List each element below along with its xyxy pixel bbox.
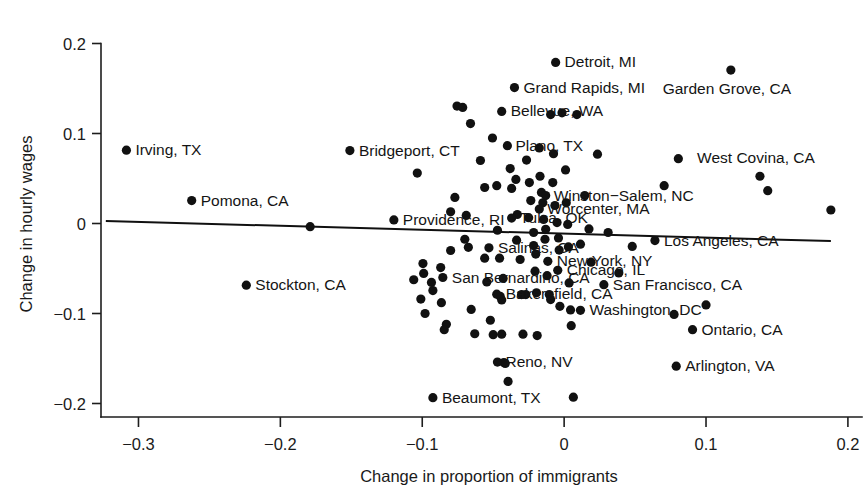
data-point: [306, 222, 315, 231]
data-point: [529, 228, 538, 237]
data-point: [470, 329, 479, 338]
data-point-labeled: [541, 191, 550, 200]
data-point: [489, 330, 498, 339]
axis-titles-group: Change in proportion of immigrantsChange…: [17, 135, 618, 485]
x-tick-label: 0.2: [836, 435, 859, 453]
data-point: [522, 155, 531, 164]
y-tick-label: −0.2: [53, 395, 86, 413]
data-point: [458, 103, 467, 112]
data-point: [525, 178, 534, 187]
data-point-labeled: [576, 306, 585, 315]
data-point: [628, 242, 637, 251]
data-point: [460, 235, 469, 244]
data-point: [428, 286, 437, 295]
data-point: [541, 225, 550, 234]
data-point: [507, 184, 516, 193]
data-point-labeled: [510, 83, 519, 92]
y-tick-label: 0.1: [63, 125, 86, 143]
data-point-labeled: [428, 393, 437, 402]
data-point-labeled: [507, 214, 516, 223]
x-tick-label: −0.1: [406, 435, 439, 453]
data-point: [446, 246, 455, 255]
data-point: [419, 269, 428, 278]
data-point-label: West Covina, CA: [697, 149, 815, 166]
data-point-label: Reno, NV: [505, 353, 573, 370]
data-point-label: Bellevue, WA: [511, 102, 604, 119]
data-point-labeled: [389, 215, 398, 224]
data-point-label: Los Angeles, CA: [664, 232, 779, 249]
scatter-plot-figure: 0.20.10−0.1−0.2−0.3−0.2−0.100.10.2 Irvin…: [0, 0, 867, 503]
data-point-labeled: [650, 236, 659, 245]
data-point: [416, 295, 425, 304]
y-axis-title: Change in hourly wages: [17, 135, 35, 312]
data-point-labeled: [726, 65, 735, 74]
data-point-labeled: [492, 290, 501, 299]
data-point: [466, 119, 475, 128]
data-point-label: Plano, TX: [515, 137, 583, 154]
data-point-label: Garden Grove, CA: [663, 80, 792, 97]
data-point-labeled: [345, 146, 354, 155]
data-point-labeled: [551, 58, 560, 67]
y-tick-label: −0.1: [53, 305, 86, 323]
data-point: [516, 255, 525, 264]
data-point-labeled: [493, 358, 502, 367]
data-point: [497, 330, 506, 339]
data-point: [409, 275, 418, 284]
data-point: [492, 181, 501, 190]
data-point-labeled: [242, 281, 251, 290]
data-point-labeled: [187, 196, 196, 205]
data-point-label: San Francisco, CA: [613, 276, 743, 293]
data-point: [518, 330, 527, 339]
data-point: [436, 263, 445, 272]
data-point-labeled: [672, 362, 681, 371]
data-point: [511, 175, 520, 184]
data-point: [427, 278, 436, 287]
plot-canvas: 0.20.10−0.1−0.2−0.3−0.2−0.100.10.2 Irvin…: [0, 0, 867, 503]
data-point-labeled: [543, 257, 552, 266]
data-point-label: Winston−Salem, NC: [554, 187, 694, 204]
data-point: [413, 169, 422, 178]
data-point: [480, 254, 489, 263]
y-tick-label: 0.2: [63, 35, 86, 53]
x-tick-label: 0.1: [695, 435, 718, 453]
data-point-labeled: [755, 172, 764, 181]
data-point-label: Irving, TX: [135, 141, 202, 158]
data-point: [566, 305, 575, 314]
data-point: [674, 154, 683, 163]
data-point-label: Arlington, VA: [685, 357, 775, 374]
data-point: [593, 150, 602, 159]
data-point-label: Bakersfield, CA: [506, 285, 613, 302]
data-point-label: Bridgeport, CT: [359, 142, 460, 159]
data-point: [486, 316, 495, 325]
data-point: [826, 205, 835, 214]
data-point: [533, 331, 542, 340]
data-point-label: Grand Rapids, MI: [523, 79, 644, 96]
data-point-labeled: [122, 146, 131, 155]
data-point: [418, 259, 427, 268]
data-point: [604, 228, 613, 237]
data-point-labeled: [438, 273, 447, 282]
data-point: [464, 243, 473, 252]
data-point-label: Detroit, MI: [565, 53, 636, 70]
data-points-group: [122, 58, 836, 402]
data-point: [437, 298, 446, 307]
data-point-labeled: [484, 243, 493, 252]
data-point-labeled: [497, 107, 506, 116]
data-point-label: Pomona, CA: [201, 192, 290, 209]
data-point: [555, 302, 564, 311]
data-point: [763, 186, 772, 195]
data-point-label: Ontario, CA: [702, 321, 784, 338]
x-tick-label: 0: [560, 435, 569, 453]
data-point: [561, 165, 570, 174]
data-point: [535, 172, 544, 181]
data-point: [450, 193, 459, 202]
data-point: [440, 325, 449, 334]
data-point: [701, 300, 710, 309]
data-point-labeled: [688, 325, 697, 334]
data-point: [480, 183, 489, 192]
data-point: [476, 156, 485, 165]
x-axis-title: Change in proportion of immigrants: [360, 467, 618, 485]
y-tick-label: 0: [77, 215, 86, 233]
x-tick-label: −0.2: [264, 435, 297, 453]
data-point: [506, 164, 515, 173]
